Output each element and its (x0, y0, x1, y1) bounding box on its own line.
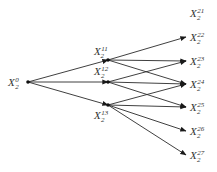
edge-x12-x24 (108, 82, 186, 84)
node-label-x11: X112 (93, 45, 108, 60)
node-label-x22: X222 (189, 31, 205, 46)
node-dot-x12 (106, 80, 110, 84)
node-label-x24: X242 (189, 78, 205, 93)
edge-x11-x22 (108, 37, 186, 60)
edges-group (28, 37, 186, 155)
node-dot-x0 (26, 80, 30, 84)
edge-x13-x26 (108, 105, 186, 131)
node-dot-x11 (106, 58, 110, 62)
tree-diagram: X02X112X122X132X212X222X232X242X252X262X… (0, 0, 217, 172)
node-label-x21: X212 (189, 7, 204, 22)
node-dot-x13 (106, 103, 110, 107)
edge-x11-x24 (108, 60, 186, 84)
node-label-x23: X232 (189, 55, 205, 70)
labels-group: X02X112X122X132X212X222X232X242X252X262X… (7, 7, 205, 164)
edge-x13-x25 (108, 105, 186, 107)
node-label-x0: X02 (7, 76, 19, 91)
node-label-x25: X252 (189, 101, 205, 116)
edge-x13-x24 (108, 84, 186, 105)
node-label-x12: X122 (93, 65, 109, 80)
node-label-x26: X262 (189, 125, 205, 140)
edge-x12-x23 (108, 61, 186, 82)
edge-x0-x13 (28, 82, 108, 105)
edge-x11-x23 (108, 60, 186, 61)
edge-x13-x27 (108, 105, 186, 155)
node-label-x27: X272 (189, 149, 205, 164)
node-label-x13: X132 (93, 109, 109, 124)
